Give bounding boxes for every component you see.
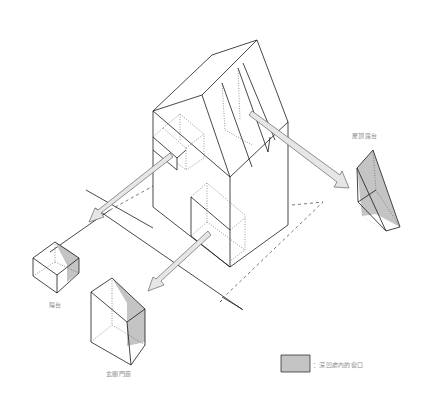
entrance-porch-box: [91, 278, 145, 365]
label-rooftop-terrace: 屋頂露台: [352, 131, 377, 140]
site-lines: [50, 190, 243, 310]
legend-swatch: [281, 355, 310, 372]
arrow-to-balcony: [89, 153, 173, 222]
house: [153, 40, 288, 267]
rooftop-terrace-wedge: [357, 150, 400, 231]
legend-text: ：深凹處內的窗口: [313, 360, 363, 369]
property-dashed-line: [110, 186, 323, 297]
arrow-to-entrance-porch: [148, 231, 211, 291]
isometric-house-diagram: [0, 0, 422, 412]
arrow-to-rooftop-terrace: [249, 111, 349, 188]
label-balcony: 陽台: [49, 300, 62, 309]
label-entrance-porch: 玄關門廊: [106, 369, 131, 378]
balcony-cube: [33, 242, 79, 293]
